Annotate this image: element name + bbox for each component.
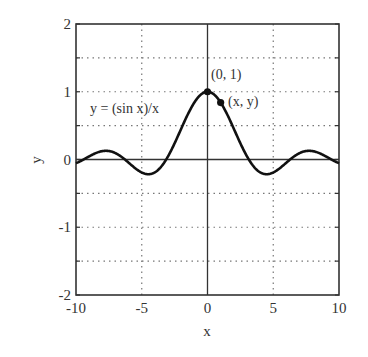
curve-label: y = (sin x)/x xyxy=(90,101,159,117)
y-tick-label: 1 xyxy=(64,84,72,100)
x-tick-label: 5 xyxy=(270,300,278,316)
y-tick-label: -2 xyxy=(59,287,72,303)
x-tick-label: 10 xyxy=(332,300,347,316)
y-tick-label: 0 xyxy=(64,152,72,168)
x-axis-label: x xyxy=(203,323,211,339)
axes xyxy=(76,24,339,295)
x-tick-label: -5 xyxy=(136,300,149,316)
y-axis-label: y xyxy=(28,156,44,164)
point-marker xyxy=(217,99,224,106)
sinc-chart: -10-50510-2-1012 y = (sin x)/x (0, 1) (x… xyxy=(0,0,368,357)
point-marker xyxy=(204,88,211,95)
point-origin-label: (0, 1) xyxy=(211,67,242,83)
y-tick-label: -1 xyxy=(59,219,72,235)
tick-labels: -10-50510-2-1012 xyxy=(59,16,347,316)
x-tick-label: 0 xyxy=(204,300,212,316)
point-xy-label: (x, y) xyxy=(228,94,259,110)
y-tick-label: 2 xyxy=(64,16,72,32)
